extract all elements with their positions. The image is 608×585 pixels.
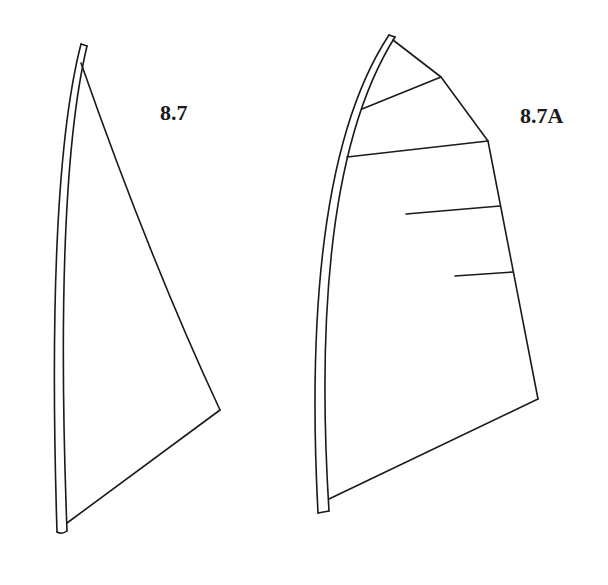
mast-inner bbox=[325, 37, 395, 511]
mast-cap-bottom bbox=[318, 511, 329, 513]
batten-3 bbox=[406, 206, 500, 214]
mast-cap-top bbox=[389, 35, 395, 37]
sail-leech bbox=[81, 63, 220, 410]
sail-foot bbox=[329, 399, 538, 499]
batten-4 bbox=[455, 272, 513, 276]
figure-8-7a bbox=[315, 35, 538, 513]
sail-foot bbox=[67, 410, 220, 523]
figure-label-8-7: 8.7 bbox=[160, 100, 188, 126]
mast-cap-bottom bbox=[57, 531, 67, 533]
mast-cap-top bbox=[81, 44, 87, 46]
batten-1 bbox=[362, 77, 441, 109]
sail-diagram bbox=[0, 0, 608, 585]
batten-2 bbox=[347, 141, 488, 157]
figure-label-8-7a: 8.7A bbox=[520, 103, 563, 129]
figure-8-7 bbox=[54, 44, 220, 533]
mast-outer bbox=[54, 44, 81, 532]
sail-leech bbox=[393, 40, 538, 399]
